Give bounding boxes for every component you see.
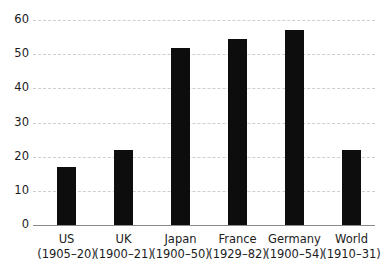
bar-world xyxy=(342,150,361,225)
y-tick-label: 30 xyxy=(3,117,29,129)
y-tick-label: 50 xyxy=(3,48,29,60)
y-tick-label: 60 xyxy=(3,14,29,26)
bar-france xyxy=(228,39,247,225)
bar-chart: 60 50 40 30 20 10 0 US (1905–20) UK (190… xyxy=(0,0,386,272)
bar-uk xyxy=(114,150,133,225)
y-tick-label: 10 xyxy=(3,185,29,197)
gridline-20 xyxy=(33,157,375,158)
bar-germany xyxy=(285,30,304,225)
x-axis-line xyxy=(33,225,375,226)
x-tick-period: (1910–31) xyxy=(317,247,386,262)
bar-japan xyxy=(171,48,190,225)
y-tick-label: 20 xyxy=(3,151,29,163)
gridline-40 xyxy=(33,88,375,89)
gridline-10 xyxy=(33,191,375,192)
gridline-50 xyxy=(33,54,375,55)
y-tick-label: 0 xyxy=(3,219,29,231)
gridline-60 xyxy=(33,20,375,21)
x-axis: US (1905–20) UK (1900–21) Japan (1900–50… xyxy=(33,232,375,272)
bar-us xyxy=(57,167,76,225)
y-axis: 60 50 40 30 20 10 0 xyxy=(0,20,29,225)
plot-area xyxy=(33,20,375,225)
gridline-30 xyxy=(33,123,375,124)
y-tick-label: 40 xyxy=(3,83,29,95)
x-tick-label-world: World (1910–31) xyxy=(317,232,386,262)
x-tick-name: World xyxy=(317,232,386,247)
